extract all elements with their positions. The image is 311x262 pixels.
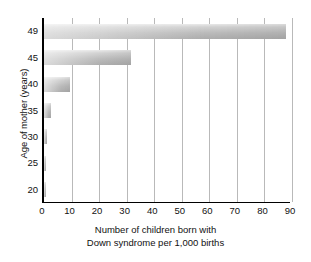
y-tick-35: 35: [16, 106, 38, 116]
x-tick-90: 90: [278, 205, 302, 216]
bar-age-45: [44, 50, 131, 65]
bar-row: [44, 71, 70, 97]
bar-series: [44, 18, 290, 202]
x-axis-tick-labels: 0102030405060708090: [42, 205, 290, 219]
x-tick-40: 40: [140, 205, 164, 216]
x-tick-80: 80: [250, 205, 274, 216]
y-axis-tick-labels: 49454035302520: [14, 18, 38, 203]
x-tick-20: 20: [85, 205, 109, 216]
bar-age-20: [44, 182, 46, 197]
bar-row: [44, 44, 131, 70]
x-tick-50: 50: [168, 205, 192, 216]
y-tick-49: 49: [16, 26, 38, 36]
bar-age-49: [44, 24, 286, 39]
bar-row: [44, 150, 46, 176]
bar-age-40: [44, 77, 70, 92]
x-axis-title-line2: Down syndrome per 1,000 births: [0, 237, 311, 250]
bar-age-30: [44, 129, 47, 144]
gridline: [292, 18, 293, 202]
bar-age-25: [44, 156, 46, 171]
bar-row: [44, 97, 51, 123]
x-axis-title-line1: Number of children born with: [95, 224, 216, 235]
y-tick-30: 30: [16, 132, 38, 142]
bar-row: [44, 18, 286, 44]
x-tick-0: 0: [30, 205, 54, 216]
x-tick-70: 70: [223, 205, 247, 216]
chart-figure: Age of mother (years) 49454035302520 010…: [0, 0, 311, 262]
plot-area: [42, 18, 290, 203]
x-tick-30: 30: [113, 205, 137, 216]
y-tick-40: 40: [16, 79, 38, 89]
y-tick-45: 45: [16, 53, 38, 63]
x-axis-title: Number of children born with Down syndro…: [0, 224, 311, 249]
x-tick-60: 60: [195, 205, 219, 216]
y-tick-25: 25: [16, 158, 38, 168]
bar-age-35: [44, 103, 51, 118]
y-tick-20: 20: [16, 185, 38, 195]
bar-row: [44, 177, 46, 203]
bar-row: [44, 124, 47, 150]
x-tick-10: 10: [58, 205, 82, 216]
